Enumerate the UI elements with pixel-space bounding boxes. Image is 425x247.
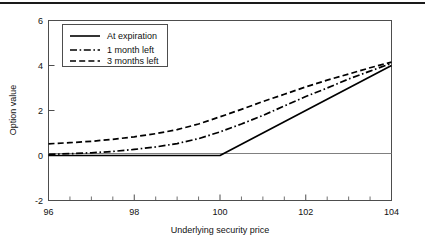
legend-label-3-months-left: 3 months left: [107, 56, 159, 66]
x-axis-title: Underlying security price: [171, 225, 270, 235]
x-tick-label: 98: [129, 207, 139, 217]
x-axis-tick-labels: 96 98 100 102 104: [43, 207, 399, 217]
x-tick-label: 100: [212, 207, 227, 217]
y-tick-label: 6: [38, 16, 43, 26]
option-value-chart: 6 4 2 0 -2 96 98 100 102 104 Underlying …: [0, 0, 425, 247]
legend-label-1-month-left: 1 month left: [107, 45, 155, 55]
data-series-group: [49, 62, 392, 155]
legend-label-at-expiration: At expiration: [107, 31, 157, 41]
series-at-expiration: [49, 66, 392, 156]
legend: At expiration 1 month left 3 months left: [63, 25, 168, 67]
y-axis-ticks: [49, 21, 55, 201]
x-tick-label: 102: [298, 207, 313, 217]
y-tick-label: 2: [38, 106, 43, 116]
y-axis-title: Option value: [8, 85, 18, 136]
y-tick-label: 0: [38, 151, 43, 161]
x-axis-ticks: [49, 195, 392, 201]
x-tick-label: 104: [384, 207, 399, 217]
y-tick-label: 4: [38, 61, 43, 71]
y-axis-tick-labels: 6 4 2 0 -2: [35, 16, 43, 206]
series-3-months-left: [49, 62, 392, 144]
x-tick-label: 96: [43, 207, 53, 217]
figure-container: 6 4 2 0 -2 96 98 100 102 104 Underlying …: [0, 0, 425, 247]
y-tick-label: -2: [35, 196, 43, 206]
